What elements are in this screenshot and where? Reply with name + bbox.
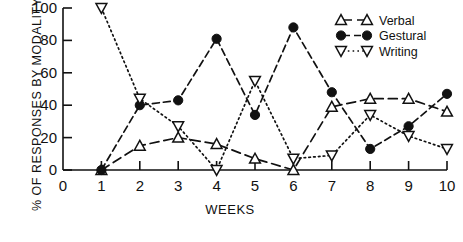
triangle-down-open-icon xyxy=(96,4,107,14)
circle-filled-icon xyxy=(336,31,345,40)
x-tick-label: 5 xyxy=(251,177,259,194)
triangle-up-open-icon xyxy=(173,132,184,142)
x-tick-label: 9 xyxy=(404,177,412,194)
x-tick-label: 10 xyxy=(439,177,456,194)
triangle-down-open-icon xyxy=(336,47,347,57)
legend-label: Writing xyxy=(379,45,418,59)
x-tick-label: 2 xyxy=(136,177,144,194)
circle-filled-icon xyxy=(212,34,221,43)
circle-filled-icon xyxy=(366,144,375,153)
y-tick-label: 40 xyxy=(40,96,57,113)
x-tick-label: 7 xyxy=(328,177,336,194)
data-point-marker xyxy=(442,89,451,98)
data-point-marker xyxy=(174,96,183,105)
legend-item-gestural: Gestural xyxy=(336,29,426,43)
x-tick-label: 3 xyxy=(174,177,182,194)
data-point-marker xyxy=(404,122,413,131)
triangle-up-open-icon xyxy=(250,153,261,163)
x-axis-ticks: 012345678910 xyxy=(59,161,456,194)
x-tick-label: 0 xyxy=(59,177,67,194)
y-tick-label: 60 xyxy=(40,64,57,81)
circle-filled-icon xyxy=(289,23,298,32)
triangle-down-open-icon xyxy=(442,145,453,155)
y-tick-label: 20 xyxy=(40,129,57,146)
data-point-marker xyxy=(336,31,345,40)
chart-figure: % OF RESPONSES BY MODALITY WEEKS 0204060… xyxy=(0,0,463,242)
x-tick-label: 1 xyxy=(97,177,105,194)
legend-item-verbal: Verbal xyxy=(336,14,415,28)
circle-filled-icon xyxy=(442,89,451,98)
circle-filled-icon xyxy=(404,122,413,131)
data-point-marker xyxy=(173,132,184,142)
chart-legend: VerbalGesturalWriting xyxy=(336,14,427,59)
data-point-marker xyxy=(336,47,347,57)
y-axis-ticks: 020406080100 xyxy=(32,0,72,178)
y-tick-label: 80 xyxy=(40,31,57,48)
data-point-marker xyxy=(97,165,106,174)
x-tick-label: 4 xyxy=(212,177,220,194)
data-point-marker xyxy=(96,4,107,14)
data-point-marker xyxy=(250,110,259,119)
legend-label: Gestural xyxy=(379,29,426,43)
data-point-marker xyxy=(362,31,371,40)
circle-filled-icon xyxy=(174,96,183,105)
plot-area: 020406080100 012345678910 VerbalGestural… xyxy=(0,0,463,242)
circle-filled-icon xyxy=(97,165,106,174)
y-tick-label: 100 xyxy=(32,0,57,16)
data-point-marker xyxy=(442,145,453,155)
data-point-marker xyxy=(327,88,336,97)
circle-filled-icon xyxy=(250,110,259,119)
data-point-marker xyxy=(289,23,298,32)
legend-item-writing: Writing xyxy=(336,45,418,59)
circle-filled-icon xyxy=(362,31,371,40)
circle-filled-icon xyxy=(327,88,336,97)
legend-label: Verbal xyxy=(379,14,414,28)
x-tick-label: 6 xyxy=(289,177,297,194)
triangle-down-open-icon xyxy=(250,76,261,86)
data-point-marker xyxy=(250,153,261,163)
data-point-marker xyxy=(366,144,375,153)
data-point-marker xyxy=(212,34,221,43)
x-tick-label: 8 xyxy=(366,177,374,194)
y-tick-label: 0 xyxy=(49,161,57,178)
data-point-marker xyxy=(250,76,261,86)
